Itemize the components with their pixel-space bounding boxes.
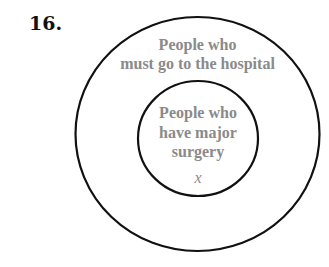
outer-set-label: People who must go to the hospital <box>90 35 305 73</box>
inner-set-label-line: have major <box>140 123 256 143</box>
outer-set-label-line: must go to the hospital <box>90 54 305 73</box>
inner-set-label-line: People who <box>140 103 256 123</box>
inner-set-label-line: surgery <box>140 142 256 162</box>
outer-set-label-line: People who <box>90 35 305 54</box>
element-variable: x <box>188 169 208 187</box>
inner-set-label: People who have major surgery <box>140 103 256 162</box>
